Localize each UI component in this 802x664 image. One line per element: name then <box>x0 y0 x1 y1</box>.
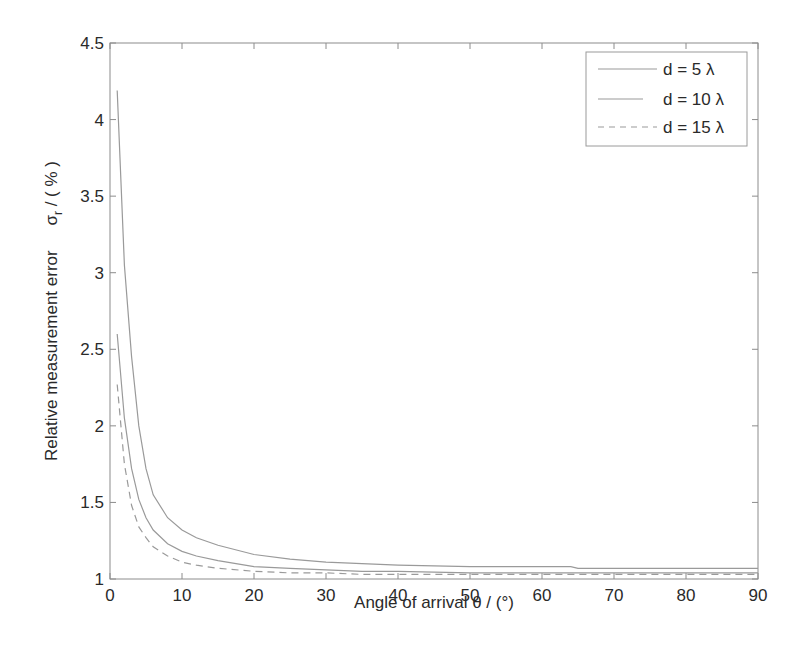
x-tick-label: 90 <box>749 586 768 605</box>
y-tick-label: 1 <box>95 570 104 589</box>
chart-canvas: 0102030405060708090 11.522.533.544.5 Ang… <box>0 0 802 664</box>
y-tick-label: 4.5 <box>80 34 104 53</box>
y-axis-label-unit: / ( % ) <box>42 161 61 211</box>
y-tick-label: 3.5 <box>80 187 104 206</box>
y-tick-label: 3 <box>95 264 104 283</box>
x-tick-label: 70 <box>605 586 624 605</box>
legend-label-d5: d = 5 λ <box>663 60 715 79</box>
legend: d = 5 λ d = 10 λ d = 15 λ <box>586 52 747 146</box>
legend-label-d15: d = 15 λ <box>663 118 724 137</box>
y-axis-label-symbol: σ <box>42 215 61 226</box>
y-tick-label: 2 <box>95 417 104 436</box>
y-axis-label: Relative measurement error σr / ( % ) <box>42 161 65 461</box>
y-tick-label: 2.5 <box>80 340 104 359</box>
x-tick-label: 0 <box>105 586 114 605</box>
x-tick-label: 60 <box>533 586 552 605</box>
x-axis-label: Angle of arrival θ / (°) <box>354 593 514 612</box>
y-tick-label: 4 <box>95 111 104 130</box>
x-tick-label: 80 <box>677 586 696 605</box>
y-axis-label-group: Relative measurement error σr / ( % ) <box>42 161 65 461</box>
y-tick-label: 1.5 <box>80 493 104 512</box>
x-tick-label: 20 <box>245 586 264 605</box>
x-tick-label: 30 <box>317 586 336 605</box>
y-axis-label-main: Relative measurement error <box>42 250 61 461</box>
x-tick-label: 10 <box>173 586 192 605</box>
legend-label-d10: d = 10 λ <box>663 90 724 109</box>
